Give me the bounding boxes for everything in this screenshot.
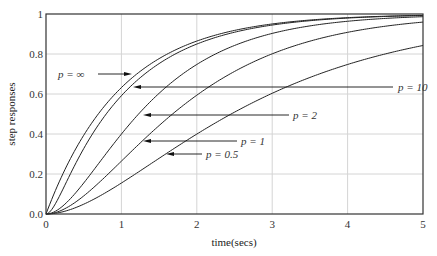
x-axis-ticks: 012345: [43, 218, 426, 230]
y-axis-label: step responses: [5, 82, 17, 145]
x-tick-label: 5: [420, 218, 426, 230]
x-tick-label: 0: [43, 218, 49, 230]
grid-lines: [46, 14, 423, 214]
curve-p1: [46, 22, 423, 214]
annotation: p = 2: [143, 109, 317, 121]
annotation-label: p = 1: [240, 135, 265, 147]
step-response-chart: 012345 0.00.20.40.60.81 p = ∞p = 10p = 2…: [0, 0, 437, 256]
y-tick-label: 0.0: [29, 208, 43, 220]
annotation: p = 1: [143, 135, 265, 147]
arrow-head-icon: [143, 113, 151, 117]
annotation: p = 0.5: [166, 148, 239, 160]
arrow-head-icon: [133, 85, 141, 89]
curve-p0_5: [46, 45, 423, 214]
plot-frame: [46, 14, 423, 214]
annotation: p = ∞: [57, 68, 132, 80]
y-tick-label: 0.6: [29, 88, 43, 100]
y-axis-ticks: 0.00.20.40.60.81: [29, 8, 43, 220]
x-tick-label: 2: [194, 218, 200, 230]
x-tick-label: 4: [345, 218, 351, 230]
y-tick-label: 0.4: [29, 128, 43, 140]
arrow-head-icon: [124, 72, 132, 76]
annotation-label: p = 2: [292, 109, 317, 121]
y-tick-label: 1: [38, 8, 44, 20]
annotation-label: p = ∞: [57, 68, 84, 80]
annotation: p = 10: [133, 81, 428, 93]
x-tick-label: 1: [119, 218, 125, 230]
annotation-label: p = 10: [397, 81, 428, 93]
curve-annotations: p = ∞p = 10p = 2p = 1p = 0.5: [57, 68, 428, 160]
y-tick-label: 0.2: [29, 168, 43, 180]
x-axis-label: time(secs): [211, 236, 257, 249]
x-tick-label: 3: [269, 218, 275, 230]
annotation-label: p = 0.5: [205, 148, 239, 160]
y-tick-label: 0.8: [29, 48, 43, 60]
